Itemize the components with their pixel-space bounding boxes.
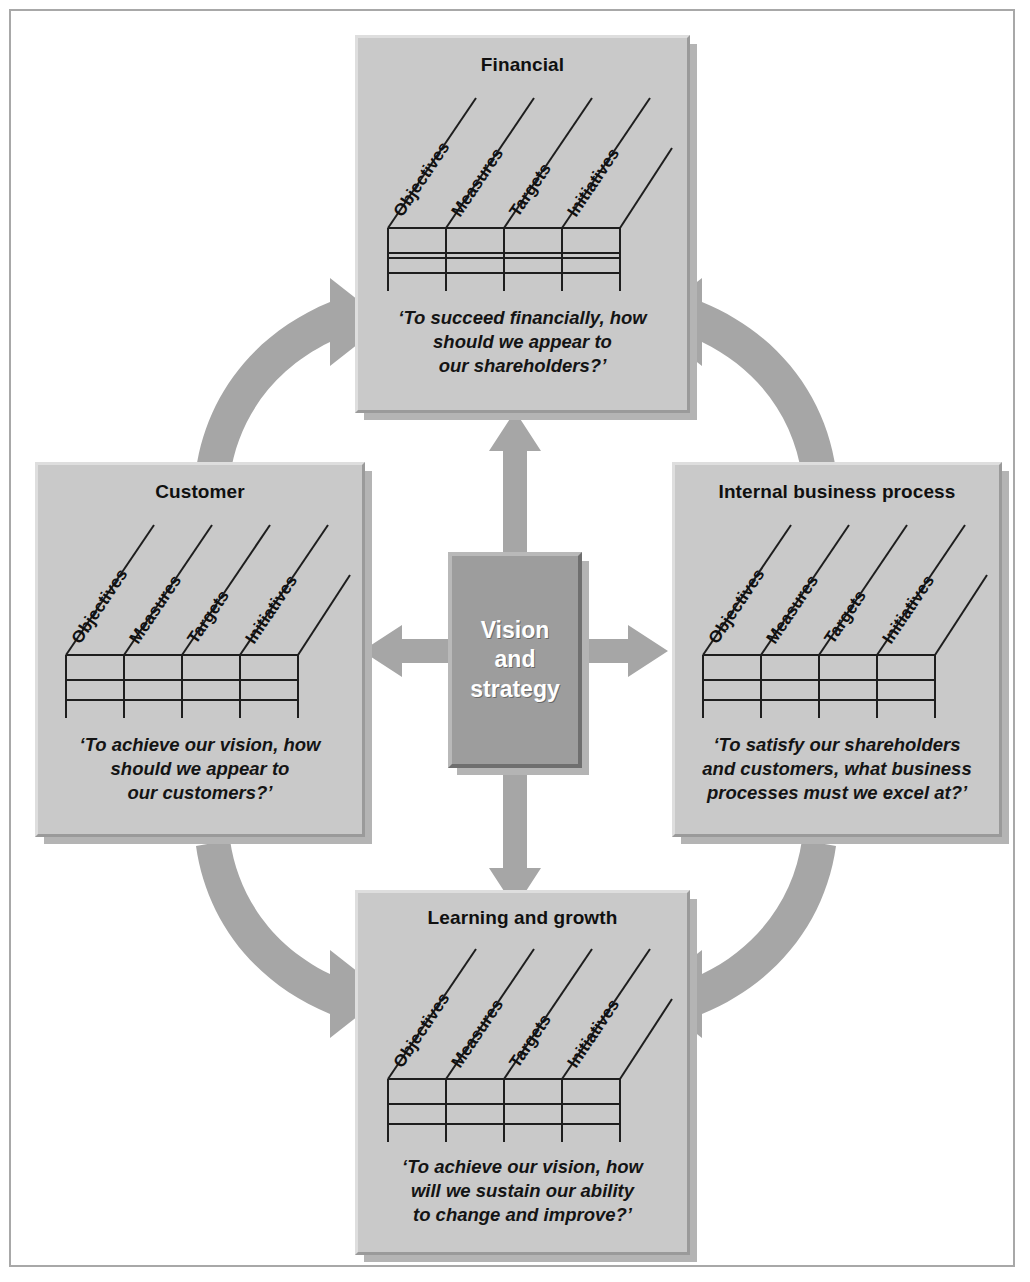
column-header-0: Objectives <box>68 565 132 647</box>
panel-customer-title: Customer <box>38 481 362 503</box>
panel-learning-and-growth-title: Learning and growth <box>358 907 687 929</box>
quote-line: to change and improve?’ <box>358 1203 687 1227</box>
panel-customer[interactable]: Customer <box>35 462 365 837</box>
column-header-0: Objectives <box>390 989 454 1071</box>
scorecard-grid-internal-business-process: Objectives Measures Targets Initiatives <box>699 513 991 718</box>
panel-internal-business-process[interactable]: Internal business process <box>672 462 1002 837</box>
quote-line: our shareholders?’ <box>358 354 687 378</box>
column-header-2: Targets <box>506 160 555 220</box>
scorecard-grid-learning-and-growth: Objectives Measures Targets Initiatives <box>384 937 676 1142</box>
column-header-3: Initiatives <box>242 572 302 648</box>
column-header-2: Targets <box>506 1011 555 1071</box>
center-vision-line-3: strategy <box>470 675 559 704</box>
panel-financial[interactable]: Financial <box>355 35 690 413</box>
column-header-1: Measures <box>448 996 508 1072</box>
panel-customer-quote: ‘To achieve our vision, how should we ap… <box>38 733 362 805</box>
center-vision-line-2: and <box>470 645 559 674</box>
panel-financial-quote: ‘To succeed financially, how should we a… <box>358 306 687 378</box>
quote-line: ‘To achieve our vision, how <box>38 733 362 757</box>
column-header-1: Measures <box>126 572 186 648</box>
center-vision-label: Vision and strategy <box>470 616 559 704</box>
quote-line: ‘To succeed financially, how <box>358 306 687 330</box>
balanced-scorecard-figure: Financial <box>0 0 1030 1282</box>
quote-line: ‘To satisfy our shareholders <box>675 733 999 757</box>
column-header-0: Objectives <box>705 565 769 647</box>
scorecard-grid-financial: Objectives Measures Targets Initiatives <box>384 86 676 291</box>
center-vision-and-strategy-box[interactable]: Vision and strategy <box>448 552 582 768</box>
panel-learning-and-growth[interactable]: Learning and growth <box>355 890 690 1255</box>
column-header-3: Initiatives <box>564 145 624 221</box>
panel-internal-business-process-title: Internal business process <box>675 481 999 503</box>
panel-internal-business-process-quote: ‘To satisfy our shareholders and custome… <box>675 733 999 805</box>
column-header-1: Measures <box>448 145 508 221</box>
column-header-2: Targets <box>184 587 233 647</box>
panel-learning-and-growth-quote: ‘To achieve our vision, how will we sust… <box>358 1155 687 1227</box>
column-header-3: Initiatives <box>879 572 939 648</box>
column-header-3: Initiatives <box>564 996 624 1072</box>
quote-line: and customers, what business <box>675 757 999 781</box>
column-header-2: Targets <box>821 587 870 647</box>
center-vision-line-1: Vision <box>470 616 559 645</box>
quote-line: should we appear to <box>38 757 362 781</box>
panel-financial-title: Financial <box>358 54 687 76</box>
quote-line: processes must we excel at?’ <box>675 781 999 805</box>
column-header-0: Objectives <box>390 138 454 220</box>
quote-line: should we appear to <box>358 330 687 354</box>
quote-line: our customers?’ <box>38 781 362 805</box>
quote-line: ‘To achieve our vision, how <box>358 1155 687 1179</box>
column-header-1: Measures <box>763 572 823 648</box>
scorecard-grid-customer: Objectives Measures Targets Initiatives <box>62 513 354 718</box>
quote-line: will we sustain our ability <box>358 1179 687 1203</box>
